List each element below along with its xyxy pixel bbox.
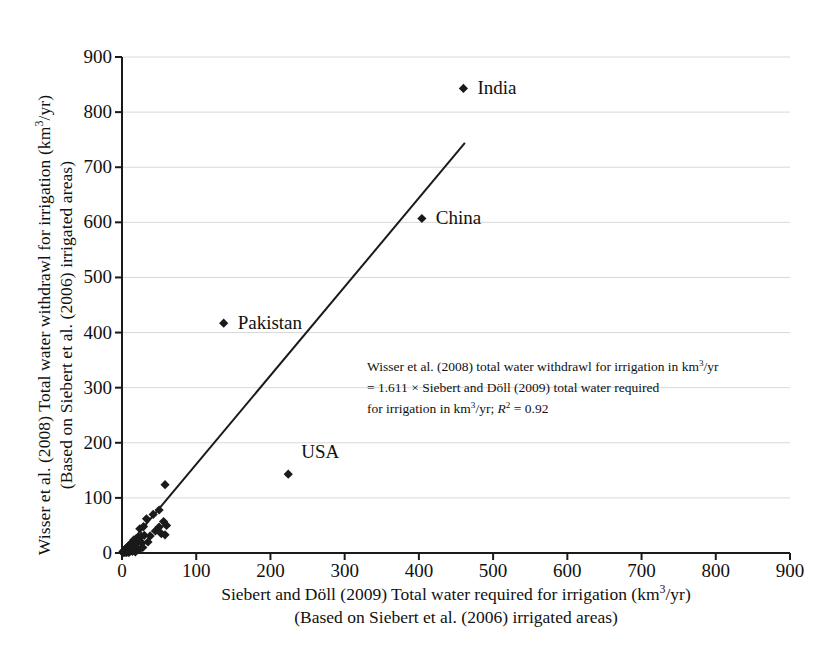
y-tick-label: 400 — [54, 322, 112, 344]
point-label-india: India — [477, 77, 516, 99]
data-point-marker — [142, 514, 151, 523]
equation-line-2: = 1.611 × Siebert and Döll (2009) total … — [367, 378, 719, 399]
y-tick-label: 600 — [54, 211, 112, 233]
x-axis-label: Siebert and Döll (2009) Total water requ… — [122, 583, 790, 629]
y-tick-label: 300 — [54, 377, 112, 399]
scatter-chart-figure: Wisser et al. (2008) Total water withdra… — [0, 0, 821, 647]
y-tick-label: 800 — [54, 101, 112, 123]
data-point-marker — [219, 319, 228, 328]
y-tick-label: 100 — [54, 487, 112, 509]
x-tick-label: 700 — [607, 560, 677, 582]
point-label-china: China — [436, 207, 481, 229]
x-tick-label: 400 — [384, 560, 454, 582]
point-label-pakistan: Pakistan — [238, 312, 302, 334]
x-axis-label-line2: (Based on Siebert et al. (2006) irrigate… — [122, 606, 790, 629]
data-point-marker — [284, 470, 293, 479]
x-tick-label: 800 — [681, 560, 751, 582]
x-tick-label: 500 — [458, 560, 528, 582]
x-tick-label: 300 — [310, 560, 380, 582]
point-label-usa: USA — [301, 441, 339, 463]
x-axis-label-line1: Siebert and Döll (2009) Total water requ… — [122, 583, 790, 606]
data-point-marker — [459, 84, 468, 93]
x-tick-label: 200 — [235, 560, 305, 582]
y-tick-label: 500 — [54, 266, 112, 288]
x-tick-label: 900 — [755, 560, 821, 582]
equation-line-1: Wisser et al. (2008) total water withdra… — [367, 357, 719, 378]
data-point-marker — [417, 214, 426, 223]
x-tick-label: 0 — [87, 560, 157, 582]
equation-line-3: for irrigation in km3/yr; R2 = 0.92 — [367, 399, 719, 420]
y-axis-tick-labels: 0100200300400500600700800900 — [50, 57, 112, 553]
data-point-marker — [160, 480, 169, 489]
y-tick-label: 900 — [54, 46, 112, 68]
x-tick-label: 100 — [161, 560, 231, 582]
plot-svg — [122, 57, 790, 553]
y-tick-label: 700 — [54, 156, 112, 178]
y-tick-label: 200 — [54, 432, 112, 454]
x-tick-label: 600 — [532, 560, 602, 582]
trendline — [122, 143, 465, 553]
plot-area: IndiaChinaPakistanUSA — [122, 57, 790, 553]
y-axis-label-superscript: 3 — [32, 121, 46, 127]
regression-equation-annotation: Wisser et al. (2008) total water withdra… — [367, 357, 719, 420]
x-axis-tick-labels: 0100200300400500600700800900 — [122, 560, 790, 586]
